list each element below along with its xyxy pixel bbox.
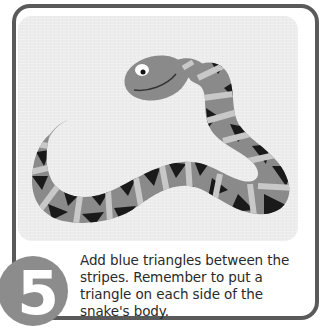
step-number: 5 <box>17 263 59 323</box>
step-number-badge: 5 <box>0 256 68 326</box>
snake-illustration <box>18 16 298 241</box>
step-instruction-text: Add blue triangles between the stripes. … <box>80 252 316 320</box>
